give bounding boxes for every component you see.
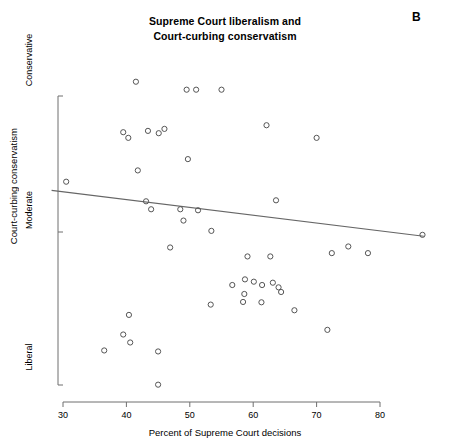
data-point: [128, 340, 133, 345]
data-point: [273, 198, 278, 203]
x-tick-label-40: 40: [121, 410, 131, 420]
data-point: [149, 207, 154, 212]
x-tick-label-70: 70: [312, 410, 322, 420]
axes-group: [58, 96, 380, 407]
x-tick-label-50: 50: [185, 410, 195, 420]
data-point: [133, 79, 138, 84]
data-point: [194, 87, 199, 92]
data-point: [121, 130, 126, 135]
data-point: [156, 131, 161, 136]
data-point: [242, 291, 247, 296]
data-point: [181, 218, 186, 223]
data-point: [325, 327, 330, 332]
data-point: [242, 277, 247, 282]
data-point: [251, 279, 256, 284]
data-point: [314, 135, 319, 140]
data-point: [64, 179, 69, 184]
data-point: [219, 87, 224, 92]
data-point: [346, 244, 351, 249]
data-point: [162, 126, 167, 131]
x-axis-line: [63, 402, 380, 407]
x-tick-label-30: 30: [58, 410, 68, 420]
data-point: [279, 289, 284, 294]
data-point: [168, 245, 173, 250]
data-point: [208, 302, 213, 307]
data-point: [184, 87, 189, 92]
data-point: [264, 123, 269, 128]
data-point: [268, 254, 273, 259]
data-point: [185, 157, 190, 162]
data-point: [329, 251, 334, 256]
x-axis-title: Percent of Supreme Court decisions: [0, 427, 450, 438]
data-point: [178, 207, 183, 212]
data-point: [292, 308, 297, 313]
data-point: [420, 232, 425, 237]
data-point: [365, 251, 370, 256]
x-tick-label-80: 80: [375, 410, 385, 420]
scatter-plot-panel: Supreme Court liberalism and Court-curbi…: [0, 0, 450, 445]
y-tick-label-liberal: Liberal: [24, 343, 34, 370]
regression-line: [52, 190, 424, 236]
data-point: [126, 312, 131, 317]
data-point: [121, 332, 126, 337]
y-tick-label-moderate: Moderate: [24, 191, 34, 229]
regression-line-group: [52, 190, 424, 236]
data-point: [145, 128, 150, 133]
y-axis-title: Court-curbing conservatism: [8, 128, 19, 244]
data-point: [156, 382, 161, 387]
y-axis-line: [58, 96, 63, 385]
data-point: [240, 299, 245, 304]
data-point: [245, 254, 250, 259]
data-point: [259, 300, 264, 305]
x-tick-label-60: 60: [248, 410, 258, 420]
data-point: [230, 282, 235, 287]
data-point: [156, 349, 161, 354]
data-point: [270, 280, 275, 285]
data-point: [259, 282, 264, 287]
data-point: [126, 135, 131, 140]
data-points-group: [64, 79, 426, 387]
data-point: [135, 168, 140, 173]
data-point: [102, 348, 107, 353]
y-tick-label-conservative: Conservative: [24, 34, 34, 87]
data-point: [209, 228, 214, 233]
plot-canvas: [0, 0, 450, 445]
